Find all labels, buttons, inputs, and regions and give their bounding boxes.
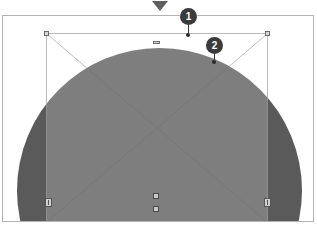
annotation-pin-2[interactable]: 2 — [206, 37, 223, 54]
handle-top-middle[interactable] — [153, 41, 160, 44]
handle-top-right[interactable] — [265, 31, 270, 36]
screenshot-root: 1 2 — [0, 0, 317, 227]
down-triangle-marker-icon — [152, 1, 168, 11]
annotation-pin-1-tip — [186, 33, 190, 37]
annotation-pin-1[interactable]: 1 — [180, 8, 197, 25]
handle-right-middle[interactable] — [264, 198, 271, 207]
handle-bottom-middle[interactable] — [153, 193, 159, 199]
annotation-pin-1-label: 1 — [180, 8, 197, 25]
annotation-pin-2-tip — [212, 60, 216, 64]
handle-rotate[interactable] — [153, 206, 159, 212]
document-canvas[interactable] — [2, 15, 314, 222]
handle-left-middle[interactable] — [45, 198, 52, 207]
annotation-pin-2-label: 2 — [206, 37, 223, 54]
handle-top-left[interactable] — [44, 31, 49, 36]
